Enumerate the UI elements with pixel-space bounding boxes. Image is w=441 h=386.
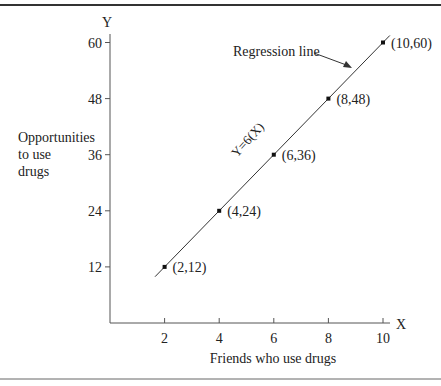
- x-tick-label: 4: [216, 331, 223, 346]
- arrowhead-icon: [343, 61, 352, 68]
- x-tick-label: 6: [270, 331, 277, 346]
- data-point: [272, 153, 276, 157]
- y-tick-label: 12: [88, 260, 102, 275]
- data-point: [326, 97, 330, 101]
- x-axis-label: Friends who use drugs: [210, 351, 336, 366]
- data-point-label: (6,36): [282, 148, 316, 164]
- y-tick-label: 60: [88, 36, 102, 51]
- chart: 2468101224364860 (2,12)(4,24)(6,36)(8,48…: [0, 0, 441, 386]
- data-point: [163, 265, 167, 269]
- data-series: (2,12)(4,24)(6,36)(8,48)(10,60): [155, 35, 432, 276]
- x-tick-label: 2: [161, 331, 168, 346]
- data-point-label: (10,60): [391, 36, 432, 52]
- x-tick-label: 10: [376, 331, 390, 346]
- x-tick-label: 8: [325, 331, 332, 346]
- data-point: [381, 41, 385, 45]
- data-point-label: (4,24): [227, 204, 261, 220]
- annotation-arrow: [314, 53, 349, 66]
- x-axis-letter: X: [396, 317, 406, 332]
- data-point-label: (2,12): [173, 260, 207, 276]
- data-point-label: (8,48): [336, 92, 370, 108]
- y-axis-label-line1: Opportunities: [18, 130, 95, 145]
- y-axis-letter: Y: [102, 15, 112, 30]
- y-tick-label: 36: [88, 148, 102, 163]
- regression-equation: Y=6(X): [228, 119, 267, 160]
- y-axis-label-line2: to use: [18, 147, 51, 162]
- y-axis-label-line3: drugs: [18, 164, 49, 179]
- data-point: [217, 209, 221, 213]
- regression-line-annotation: Regression line: [233, 44, 320, 59]
- y-tick-label: 48: [88, 92, 102, 107]
- y-tick-label: 24: [88, 204, 102, 219]
